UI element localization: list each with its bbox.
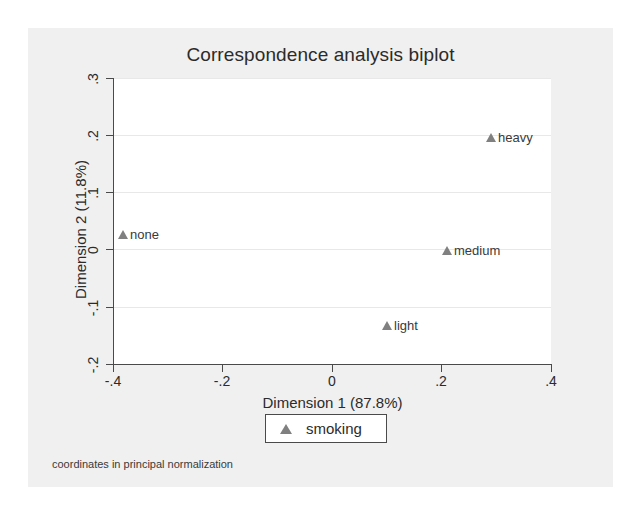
x-tick-label: .2	[421, 373, 461, 389]
chart-note: coordinates in principal normalization	[52, 458, 233, 470]
triangle-marker-icon	[486, 133, 496, 142]
y-tick-mark	[106, 364, 113, 365]
x-tick-label: -.2	[202, 373, 242, 389]
y-axis-title: Dimension 2 (11.8%)	[72, 100, 89, 360]
gridline-y-0.3	[113, 78, 551, 79]
y-tick-label: .3	[84, 71, 102, 87]
x-tick-mark	[551, 365, 552, 372]
data-point-light[interactable]: light	[382, 319, 418, 332]
triangle-marker-icon	[382, 321, 392, 330]
data-point-medium[interactable]: medium	[442, 244, 500, 257]
data-point-label: medium	[454, 244, 500, 257]
x-tick-mark	[222, 365, 223, 372]
x-axis-title: Dimension 1 (87.8%)	[113, 394, 552, 411]
data-point-label: light	[394, 319, 418, 332]
triangle-marker-icon	[280, 424, 292, 434]
gridline-y--0.1	[113, 307, 551, 308]
x-tick-mark	[113, 365, 114, 372]
legend[interactable]: smoking	[265, 414, 387, 443]
gridline-y-0.1	[113, 192, 551, 193]
x-tick-label: 0	[312, 373, 352, 389]
y-tick-mark	[106, 307, 113, 308]
graph-image: Correspondence analysis biplot none ligh…	[0, 0, 640, 513]
y-tick-mark	[106, 249, 113, 250]
x-tick-label: .4	[531, 373, 571, 389]
y-tick-mark	[106, 78, 113, 79]
triangle-marker-icon	[442, 246, 452, 255]
x-tick-label: -.4	[93, 373, 133, 389]
y-tick-mark	[106, 135, 113, 136]
triangle-marker-icon	[118, 230, 128, 239]
x-tick-mark	[441, 365, 442, 372]
legend-item-label: smoking	[306, 420, 362, 437]
data-point-none[interactable]: none	[118, 228, 159, 241]
stata-graph-region: Correspondence analysis biplot none ligh…	[28, 28, 613, 487]
plot-area: none light medium heavy	[113, 78, 551, 364]
data-point-label: none	[130, 228, 159, 241]
data-point-label: heavy	[498, 131, 533, 144]
y-axis-line	[113, 78, 114, 365]
y-tick-mark	[106, 192, 113, 193]
page-title: Correspondence analysis biplot	[28, 44, 613, 66]
x-tick-mark	[332, 365, 333, 372]
data-point-heavy[interactable]: heavy	[486, 131, 533, 144]
